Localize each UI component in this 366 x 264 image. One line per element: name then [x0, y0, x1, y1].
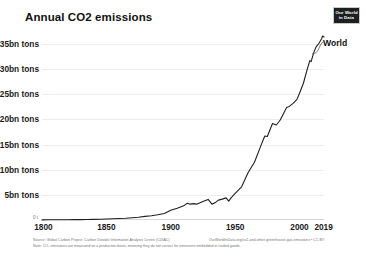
y-tick-label: 10bn tons [0, 165, 39, 175]
x-tick-label: 1800 [34, 222, 52, 232]
y-axis-zero-label: 0 t [33, 215, 38, 220]
x-tick-label: 1850 [97, 222, 115, 232]
y-tick-label: 20bn tons [0, 114, 39, 124]
line-series-world[interactable] [42, 36, 324, 220]
footer-note: Note: CO₂ emissions are measured on a pr… [33, 244, 241, 248]
chart-card: Annual CO2 emissions Our World in Data 5… [0, 0, 366, 264]
x-tick-label: 2019 [314, 222, 332, 232]
logo-line-2: in Data [339, 15, 354, 19]
y-tick-label: 35bn tons [0, 39, 39, 49]
footer-url[interactable]: OurWorldInData.org/co2-and-other-greenho… [209, 238, 324, 242]
y-tick-label: 25bn tons [0, 89, 39, 99]
series-label-world[interactable]: World [323, 38, 347, 48]
x-tick-label: 1950 [226, 222, 244, 232]
x-tick-label: 2000 [290, 222, 308, 232]
plot-area [42, 34, 324, 220]
page-title: Annual CO2 emissions [25, 11, 152, 23]
x-axis-labels: 180018501900195020002019 [42, 222, 324, 236]
y-tick-label: 15bn tons [0, 140, 39, 150]
chart-footer: Source: Global Carbon Project; Carbon Di… [33, 238, 359, 256]
y-axis-labels: 5bn tons10bn tons15bn tons20bn tons25bn … [0, 34, 39, 220]
x-tick-label: 1900 [162, 222, 180, 232]
footer-source: Source: Global Carbon Project; Carbon Di… [33, 238, 170, 242]
series-canvas [42, 34, 324, 220]
y-tick-label: 5bn tons [4, 190, 39, 200]
our-world-in-data-logo[interactable]: Our World in Data [333, 7, 360, 24]
y-tick-label: 30bn tons [0, 64, 39, 74]
